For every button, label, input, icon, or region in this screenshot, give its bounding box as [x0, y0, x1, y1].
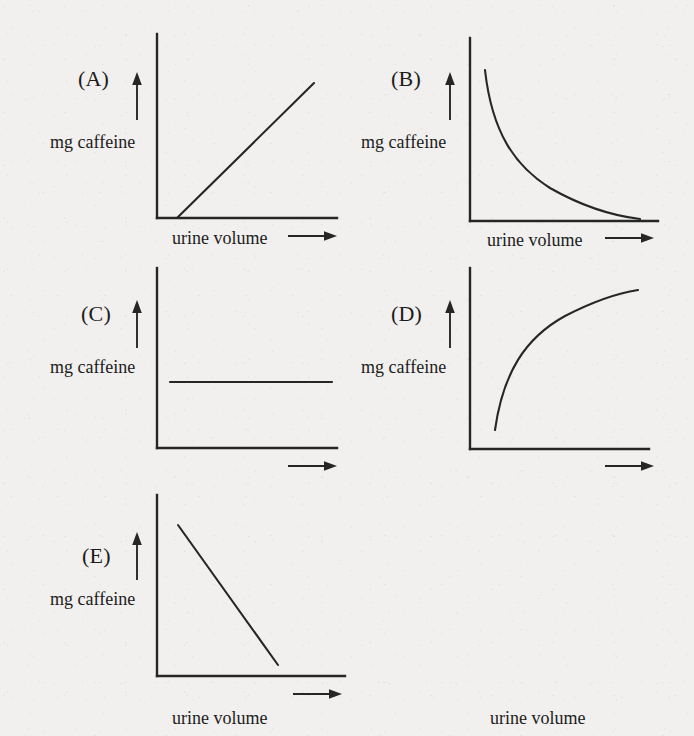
panel-a-y-axis-label: mg caffeine [50, 133, 135, 151]
panel-d-data-curve [495, 290, 638, 430]
panel-b: (B) mg caffeine urine volume [347, 0, 694, 250]
panel-b-right-arrow-icon [605, 233, 654, 243]
panel-d-right-arrow-icon [605, 461, 654, 471]
panel-b-y-axis-label: mg caffeine [361, 133, 446, 151]
panel-d-y-axis-label: mg caffeine [361, 358, 446, 376]
panel-e: (E) mg caffeine urine volume [0, 490, 347, 736]
panel-e-up-arrow-icon [132, 532, 142, 580]
panel-b-letter: (B) [391, 68, 421, 90]
panel-b-plot [347, 0, 694, 250]
panel-d: (D) mg caffeine urine volume [347, 250, 694, 490]
panel-a-right-arrow-icon [288, 231, 337, 241]
panel-c-letter: (C) [81, 303, 111, 325]
panel-d-up-arrow-icon [445, 300, 455, 348]
panel-a: (A) mg caffeine urine volume [0, 0, 347, 250]
panel-c-right-arrow-icon [288, 461, 337, 471]
panel-a-plot [0, 0, 347, 250]
panel-a-letter: (A) [78, 68, 109, 90]
panel-c-y-axis-label: mg caffeine [50, 358, 135, 376]
panel-e-y-axis-label: mg caffeine [50, 590, 135, 608]
panel-d-x-axis-label: urine volume [490, 709, 585, 727]
panel-e-data-line [178, 525, 278, 665]
panel-c: (C) mg caffeine urine volume [0, 250, 347, 490]
panel-a-data-line [177, 83, 314, 218]
panel-a-x-axis-label: urine volume [172, 229, 267, 247]
panel-e-letter: (E) [82, 545, 111, 567]
multi-panel-graph-figure: (A) mg caffeine urine volume (B) [0, 0, 694, 736]
panel-c-up-arrow-icon [132, 300, 142, 348]
panel-e-plot [0, 490, 347, 736]
panel-b-data-curve [485, 70, 640, 219]
panel-b-x-axis-label: urine volume [487, 231, 582, 249]
panel-a-up-arrow-icon [132, 72, 142, 120]
panel-e-right-arrow-icon [293, 689, 342, 699]
panel-b-up-arrow-icon [445, 72, 455, 120]
panel-d-letter: (D) [391, 303, 422, 325]
